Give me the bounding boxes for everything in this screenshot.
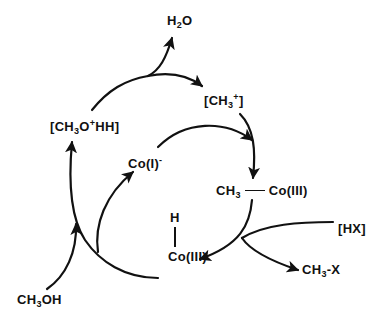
arrow-hydridocobalt-to-coI [97, 172, 133, 252]
label-hydrido-cobalt: Co(III) [168, 250, 207, 264]
label-methyl-cobalt: CH3Co(III) [216, 184, 308, 198]
arrow-to-methyl-x [242, 238, 298, 270]
label-methyl-cation: [CH3+] [204, 94, 244, 108]
arrow-protonated-to-split [92, 76, 148, 110]
label-water: H2O [167, 14, 192, 28]
arrow-methylcobalt-to-hydridocobalt [200, 200, 252, 259]
arrow-methanol-in [47, 224, 76, 289]
arrow-to-methyl-cation [148, 74, 202, 86]
arrow-methyl-cation-to-methylcobalt [240, 114, 254, 178]
label-hx: [HX] [338, 222, 366, 236]
label-methyl-x: CH3-X [302, 263, 340, 277]
label-hydrido-h: H [170, 211, 180, 225]
label-methanol: CH3OH [17, 293, 62, 307]
label-cobalt-one: Co(I)- [128, 157, 162, 171]
bond-line [245, 190, 265, 192]
bond-line-vertical [174, 227, 176, 247]
catalytic-cycle-diagram: H2O [CH3+] [CH3O+HH] Co(I)- CH3Co(III) [… [0, 0, 380, 324]
label-protonated-methanol: [CH3O+HH] [50, 120, 119, 134]
arrow-coI-to-methylcobalt [158, 126, 252, 147]
line-hx-in [242, 222, 333, 238]
arrow-to-water [148, 38, 172, 76]
